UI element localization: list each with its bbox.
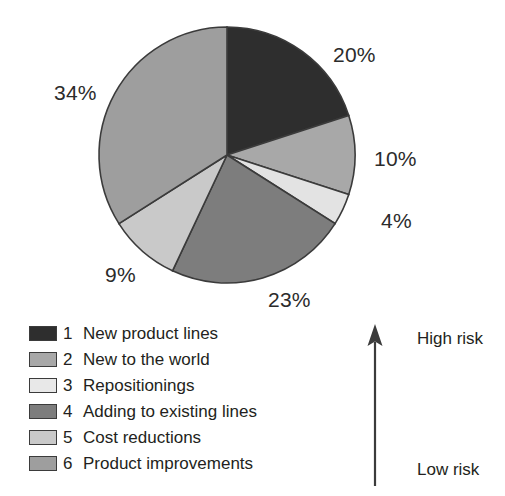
legend-swatch-3	[29, 378, 57, 393]
pie-label-slice-4: 23%	[268, 289, 311, 310]
pie-label-slice-5: 9%	[105, 264, 136, 285]
legend-label-5: Cost reductions	[83, 429, 201, 446]
legend-label-4: Adding to existing lines	[83, 403, 257, 420]
legend-swatch-4	[29, 404, 57, 419]
risk-label-high: High risk	[417, 330, 483, 347]
pie-slices	[99, 27, 355, 283]
legend-item-3: 3Repositionings	[29, 372, 329, 398]
legend: 1New product lines2New to the world3Repo…	[29, 320, 329, 476]
legend-label-2: New to the world	[83, 351, 210, 368]
risk-axis: High risk Low risk	[355, 318, 505, 496]
legend-swatch-1	[29, 326, 57, 341]
legend-item-4: 4Adding to existing lines	[29, 398, 329, 424]
pie-chart-area: 20% 10% 4% 23% 9% 34%	[0, 0, 505, 318]
legend-swatch-2	[29, 352, 57, 367]
pie-label-slice-3: 4%	[381, 210, 412, 231]
legend-label-3: Repositionings	[83, 377, 195, 394]
pie-label-slice-6: 34%	[54, 82, 97, 103]
legend-item-6: 6Product improvements	[29, 450, 329, 476]
legend-number-1: 1	[63, 325, 83, 342]
pie-chart-svg	[0, 0, 505, 318]
legend-number-3: 3	[63, 377, 83, 394]
legend-label-6: Product improvements	[83, 455, 253, 472]
pie-label-slice-1: 20%	[333, 44, 376, 65]
legend-item-2: 2New to the world	[29, 346, 329, 372]
legend-number-6: 6	[63, 455, 83, 472]
legend-swatch-5	[29, 430, 57, 445]
legend-item-1: 1New product lines	[29, 320, 329, 346]
risk-label-low: Low risk	[417, 461, 479, 478]
legend-number-2: 2	[63, 351, 83, 368]
legend-number-5: 5	[63, 429, 83, 446]
legend-swatch-6	[29, 456, 57, 471]
pie-label-slice-2: 10%	[374, 148, 417, 169]
legend-label-1: New product lines	[83, 325, 218, 342]
pie-chart-figure: 20% 10% 4% 23% 9% 34% 1New product lines…	[0, 0, 505, 496]
legend-number-4: 4	[63, 403, 83, 420]
legend-item-5: 5Cost reductions	[29, 424, 329, 450]
